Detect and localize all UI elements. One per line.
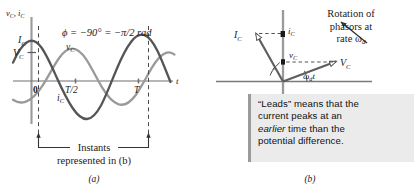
angle-label-t: t [312, 71, 315, 81]
panel-a-curve-voltage [13, 49, 175, 105]
amplitude-current-sub: C [21, 40, 26, 47]
panel-b-label: (b) [304, 174, 315, 185]
projection-label-voltage-sub: C [293, 54, 298, 61]
panel-a-amplitude-current: IC [17, 34, 26, 47]
amplitude-voltage-sub: C [19, 53, 24, 60]
panel-a-label: (a) [88, 174, 99, 185]
panel-b-phasor-current [256, 34, 283, 82]
figure-root: vC, iC t ϕ = −90° = −π/2 rad IC VC vC iC… [0, 0, 417, 189]
panel-a-tick-label-half-period: T/2 [65, 85, 78, 95]
panel-b-phasor-label-voltage: VC [340, 57, 351, 70]
panel-b-projection-marker-current [281, 31, 285, 37]
panel-a-bracket-caption-line2: represented in (b) [57, 155, 132, 167]
panel-a-y-axis-label: vC, iC [6, 8, 25, 19]
y-axis-label-i-sub: C [20, 13, 25, 19]
callout-line-3: earlier time than the [258, 123, 408, 135]
phasor-label-current-sub: C [237, 35, 242, 42]
panel-b-rotation-note-line2: phasors at [330, 21, 372, 32]
panel-b-phasor-label-current: IC [233, 29, 242, 42]
panel-b-rotation-note-line1: Rotation of [327, 8, 375, 19]
panel-b-projection-marker-voltage [281, 59, 285, 64]
panel-a-curve-label-current: iC [57, 93, 65, 104]
curve-label-voltage-sub: C [70, 46, 75, 53]
callout-line-4: potential difference. [258, 135, 408, 147]
panel-a-bracket-left [39, 141, 71, 148]
panel-a-x-axis-label: t [176, 76, 179, 86]
panel-a-bracket-caption-line1: Instants [78, 142, 111, 153]
curve-label-current-sub: C [60, 97, 65, 104]
panel-a-amplitude-voltage: VC [13, 47, 24, 60]
callout-line-3-emphasis: earlier [258, 123, 285, 134]
panel-b-rotation-note-line3: rate ωd [337, 33, 366, 46]
projection-label-current-sub: C [291, 30, 296, 37]
panel-b-angle-label: ωdt [303, 71, 315, 82]
panel-a-tick-label-period: T [134, 85, 140, 95]
callout-line-3-rest: time than the [285, 123, 345, 134]
panel-a-phase-annotation: ϕ = −90° = −π/2 rad [62, 27, 152, 38]
panel-a-curve-label-voltage: vC [66, 42, 75, 53]
callout-line-2: current peaks at an [258, 110, 408, 122]
phasor-label-voltage-sub: C [346, 63, 351, 70]
rotation-note-rate-sub: d [362, 38, 366, 46]
callout-line-1: “Leads” means that the [258, 98, 408, 110]
callout-text: “Leads” means that the current peaks at … [258, 98, 408, 148]
panel-b-projection-label-voltage: vC [289, 50, 298, 61]
panel-a-tick-label-zero: 0 [33, 85, 38, 95]
panel-b-projection-label-current: iC [288, 26, 296, 37]
panel-a-bracket-right [118, 141, 149, 148]
rotation-note-rate: rate ω [337, 33, 362, 44]
